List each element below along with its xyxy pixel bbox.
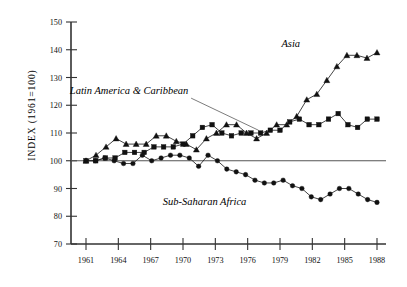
data-series-layer [83, 50, 380, 205]
data-point-circle [365, 197, 370, 202]
y-axis-tick-labels: 708090100110120130140150 [50, 18, 62, 249]
data-point-square [229, 133, 234, 138]
data-point-circle [168, 153, 173, 158]
y-tick-label: 90 [54, 185, 62, 194]
data-point-square [171, 145, 176, 150]
x-tick-label: 1964 [110, 256, 126, 265]
x-tick-label: 1982 [304, 256, 320, 265]
data-point-square [200, 125, 205, 130]
data-point-triangle [374, 50, 380, 55]
data-point-circle [271, 181, 276, 186]
data-point-square [258, 131, 263, 136]
data-point-triangle [113, 136, 119, 141]
data-point-circle [131, 161, 136, 166]
y-tick-label: 120 [50, 101, 62, 110]
data-point-square [336, 111, 341, 116]
series-line [86, 53, 377, 161]
data-point-square [132, 150, 137, 155]
data-point-square [190, 133, 195, 138]
data-point-circle [281, 178, 286, 183]
data-point-square [123, 150, 128, 155]
data-point-square [326, 117, 331, 122]
series-label-sub-saharan-africa: Sub-Saharan Africa [163, 196, 247, 207]
data-point-circle [337, 186, 342, 191]
x-tick-label: 1967 [142, 256, 158, 265]
data-point-square [307, 122, 312, 127]
data-point-circle [140, 153, 145, 158]
data-point-square [317, 122, 322, 127]
data-point-square [181, 142, 186, 147]
series-latin-america-caribbean [84, 111, 380, 163]
data-point-square [297, 117, 302, 122]
x-tick-label: 1979 [272, 256, 288, 265]
data-point-circle [84, 158, 89, 163]
data-point-circle [225, 167, 230, 172]
x-axis-group: 1961196419671970197319761979198219851988 [71, 238, 386, 265]
data-point-circle [112, 158, 117, 163]
x-axis-tick-labels: 1961196419671970197319761979198219851988 [78, 256, 385, 265]
y-tick-label: 130 [50, 74, 62, 83]
data-point-circle [318, 197, 323, 202]
data-point-circle [328, 192, 333, 197]
data-point-square [161, 145, 166, 150]
data-point-square [365, 117, 370, 122]
x-tick-label: 1976 [239, 256, 255, 265]
data-point-circle [290, 183, 295, 188]
y-tick-label: 140 [50, 46, 62, 55]
line-chart-plot: 708090100110120130140150 196119641967197… [0, 0, 407, 287]
series-label-latin-america: Latin America & Caribbean [69, 85, 189, 96]
chart-container: INDEX (1961=100) 70809010011012013014015… [0, 0, 407, 287]
data-point-triangle [304, 97, 310, 102]
y-tick-label: 70 [54, 240, 62, 249]
data-point-circle [347, 186, 352, 191]
data-point-square [375, 117, 380, 122]
data-point-circle [187, 156, 192, 161]
data-point-circle [253, 178, 258, 183]
x-tick-label: 1973 [207, 256, 223, 265]
data-point-circle [159, 156, 164, 161]
data-point-square [210, 122, 215, 127]
data-point-triangle [173, 138, 179, 143]
data-point-square [287, 120, 292, 125]
data-point-square [355, 125, 360, 130]
data-point-square [249, 131, 254, 136]
data-point-triangle [203, 136, 209, 141]
data-point-circle [375, 200, 380, 205]
data-point-circle [300, 186, 305, 191]
data-point-square [239, 131, 244, 136]
series-label-asia: Asia [280, 38, 300, 49]
data-point-circle [121, 161, 126, 166]
x-tick-label: 1961 [78, 256, 94, 265]
data-point-square [346, 122, 351, 127]
data-point-circle [243, 172, 248, 177]
y-tick-label: 80 [54, 212, 62, 221]
data-point-square [152, 145, 157, 150]
x-tick-label: 1988 [369, 256, 385, 265]
y-tick-label: 150 [50, 18, 62, 27]
data-point-circle [196, 164, 201, 169]
data-point-circle [234, 170, 239, 175]
x-tick-label: 1985 [336, 256, 352, 265]
data-point-circle [206, 153, 211, 158]
data-point-circle [93, 158, 98, 163]
data-point-circle [356, 192, 361, 197]
data-point-square [268, 128, 273, 133]
data-point-circle [215, 158, 220, 163]
x-tick-label: 1970 [175, 256, 191, 265]
data-point-circle [149, 158, 154, 163]
data-point-circle [262, 181, 267, 186]
y-tick-label: 100 [50, 157, 62, 166]
y-tick-label: 110 [50, 129, 62, 138]
data-point-triangle [254, 136, 260, 141]
data-point-square [220, 131, 225, 136]
data-point-circle [102, 156, 107, 161]
data-point-circle [178, 153, 183, 158]
series-asia [83, 50, 380, 164]
y-axis-group: 708090100110120130140150 [50, 18, 77, 249]
data-point-circle [309, 195, 314, 200]
data-point-square [278, 128, 283, 133]
